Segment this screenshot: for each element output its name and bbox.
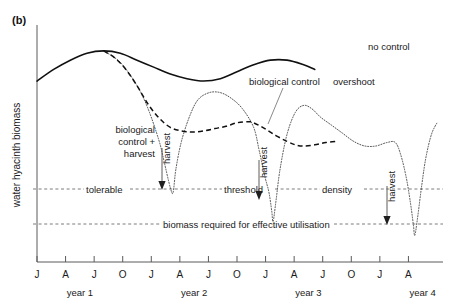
year-label-3: year 3: [295, 287, 321, 298]
ref-label-density: density: [322, 184, 352, 195]
x-tick-label-12: J: [377, 269, 382, 280]
harvest-arrow-2-head: [255, 191, 262, 200]
x-axis-year-labels: year 1year 2year 3year 4: [67, 287, 436, 298]
annotation-harvest-2: harvest: [258, 146, 269, 178]
annotation-biological-control: biological control: [249, 76, 320, 87]
year-label-4: year 4: [410, 287, 436, 298]
x-tick-label-2: J: [92, 269, 97, 280]
panel-label: (b): [12, 14, 26, 26]
annotation-harvest-3: harvest: [386, 170, 397, 202]
x-axis-ticks: [37, 256, 408, 262]
x-tick-label-7: O: [233, 269, 241, 280]
x-axis-tick-labels: JAJOJAJOJAJOJA: [35, 269, 413, 280]
annotation-no-control: no control: [368, 41, 410, 52]
annotation-bch-line-1: biological: [115, 124, 155, 135]
x-tick-label-0: J: [35, 269, 40, 280]
year-label-1: year 1: [67, 287, 93, 298]
x-tick-label-13: A: [405, 269, 412, 280]
ref-label-tolerable: tolerable: [86, 184, 122, 195]
figure-panel-b: (b) water hyacinth biomass JAJOJAJOJAJOJ…: [0, 0, 450, 307]
annotation-bch-line-2: control +: [118, 136, 155, 147]
x-tick-label-1: A: [62, 269, 69, 280]
biological-control-leader-line: [268, 88, 283, 124]
reference-line-biomass-required: biomass required for effective utilisati…: [33, 219, 443, 230]
annotation-biological-control-plus-harvest: biological control + harvest: [115, 124, 155, 159]
year-label-2: year 2: [181, 287, 207, 298]
x-tick-label-3: O: [119, 269, 127, 280]
annotation-overshoot: overshoot: [333, 76, 375, 87]
x-tick-label-11: O: [347, 269, 355, 280]
annotation-bch-line-3: harvest: [124, 148, 156, 159]
x-tick-label-4: J: [149, 269, 154, 280]
x-tick-label-8: J: [263, 269, 268, 280]
water-hyacinth-biomass-chart: (b) water hyacinth biomass JAJOJAJOJAJOJ…: [0, 0, 450, 307]
x-tick-label-5: A: [177, 269, 184, 280]
x-tick-label-6: J: [206, 269, 211, 280]
x-tick-label-9: A: [291, 269, 298, 280]
reference-line-tolerable-threshold-density: tolerable threshold density: [33, 184, 443, 195]
x-tick-label-10: J: [320, 269, 325, 280]
ref-label-biomass-required: biomass required for effective utilisati…: [163, 219, 330, 230]
y-axis-title: water hyacinth biomass: [11, 103, 22, 209]
annotation-harvest-1: harvest: [161, 132, 172, 164]
